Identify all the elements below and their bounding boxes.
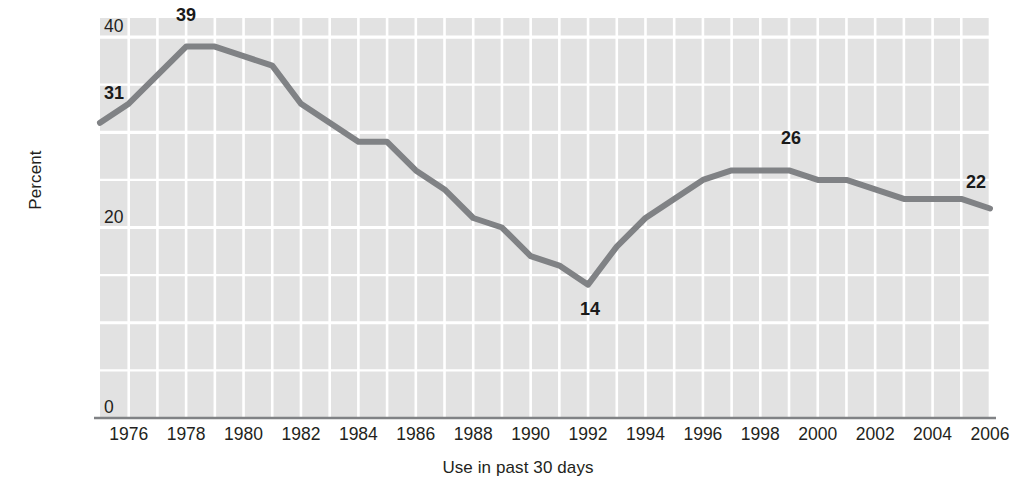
x-tick-label-1978: 1978 — [156, 424, 216, 445]
x-axis-title: Use in past 30 days — [0, 458, 1036, 478]
line-chart: Percent Use in past 30 days 02040 197619… — [0, 0, 1036, 497]
x-tick-label-1988: 1988 — [443, 424, 503, 445]
x-tick-label-2004: 2004 — [903, 424, 963, 445]
y-tick-label-40: 40 — [104, 16, 123, 37]
value-label-26: 26 — [769, 128, 813, 149]
x-tick-label-1994: 1994 — [615, 424, 675, 445]
y-tick-label-20: 20 — [104, 207, 123, 228]
x-tick-label-2000: 2000 — [788, 424, 848, 445]
x-tick-label-1998: 1998 — [730, 424, 790, 445]
x-tick-label-2002: 2002 — [845, 424, 905, 445]
x-tick-label-1982: 1982 — [271, 424, 331, 445]
x-tick-label-1984: 1984 — [328, 424, 388, 445]
x-tick-label-1980: 1980 — [214, 424, 274, 445]
plot-background — [100, 18, 990, 418]
x-tick-label-1992: 1992 — [558, 424, 618, 445]
chart-canvas — [0, 0, 1036, 497]
x-tick-label-2006: 2006 — [960, 424, 1020, 445]
x-tick-label-1990: 1990 — [501, 424, 561, 445]
value-label-31: 31 — [92, 83, 136, 104]
y-tick-label-0: 0 — [104, 397, 114, 418]
value-label-14: 14 — [568, 299, 612, 320]
value-label-39: 39 — [164, 5, 208, 26]
x-tick-label-1976: 1976 — [99, 424, 159, 445]
x-tick-label-1986: 1986 — [386, 424, 446, 445]
value-label-22: 22 — [954, 172, 998, 193]
y-axis-title: Percent — [26, 100, 46, 260]
x-tick-label-1996: 1996 — [673, 424, 733, 445]
